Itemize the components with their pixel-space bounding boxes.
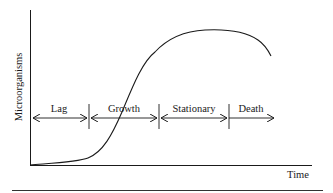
diagram-canvas: Microorganisms Time Lag Growth Stationar… — [0, 0, 333, 193]
y-axis-label: Microorganisms — [13, 53, 24, 122]
phase-label-lag: Lag — [51, 103, 68, 114]
phase-label-growth: Growth — [108, 103, 141, 114]
x-axis-label: Time — [287, 169, 309, 180]
phase-label-death: Death — [238, 103, 264, 114]
growth-curve-diagram: Microorganisms Time Lag Growth Stationar… — [0, 0, 333, 193]
phase-label-stationary: Stationary — [172, 103, 216, 114]
growth-curve — [30, 30, 271, 165]
